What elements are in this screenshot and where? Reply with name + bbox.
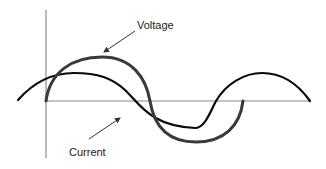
voltage-waveform bbox=[46, 57, 243, 142]
voltage-arrow bbox=[104, 31, 135, 52]
current-label: Current bbox=[69, 146, 106, 158]
voltage-label: Voltage bbox=[137, 19, 174, 31]
voltage-current-diagram: Voltage Current bbox=[0, 0, 326, 169]
current-arrow bbox=[89, 118, 120, 139]
